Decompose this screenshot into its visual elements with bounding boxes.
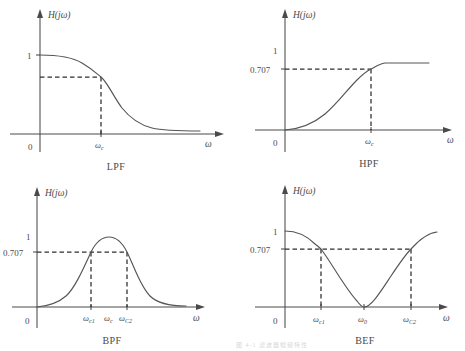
- x-axis-label-bef: ω: [443, 313, 450, 323]
- y-axis-label-bpf: H(jω): [44, 188, 68, 199]
- x-tick-label-wc2-bpf: ωC2: [119, 314, 132, 324]
- origin-label-bpf: 0: [25, 316, 30, 326]
- response-curve-lpf: [40, 55, 200, 131]
- x-tick-label-wc-hpf: ωc: [365, 137, 374, 147]
- chart-panel-lpf: H(jω) 1 0 ωc ω LPF: [0, 0, 232, 175]
- chart-svg-bef: H(jω) 1 0.707 0 ωc1 ω0 ωC2 ω BEF: [233, 176, 465, 351]
- y-tick-label-0707-bef: 0.707: [250, 245, 271, 255]
- x-tick-label-wc1-bef: ωc1: [313, 315, 325, 325]
- x-axis-label-lpf: ω: [205, 139, 212, 149]
- x-tick-label-w0-bef: ω0: [358, 315, 367, 325]
- chart-svg-bpf: H(jω) 1 0.707 0 ωc1 ωc ωC2 ω BPF: [0, 176, 232, 351]
- x-axis-label-hpf: ω: [447, 135, 454, 145]
- chart-panel-hpf: H(jω) 1 0.707 0 ωc ω HPF: [233, 0, 465, 175]
- y-tick-label-0707-hpf: 0.707: [250, 65, 271, 75]
- figure-sheet: H(jω) 1 0 ωc ω LPF H(jω) 1 0.707 0 ωc ω …: [0, 0, 465, 351]
- chart-svg-hpf: H(jω) 1 0.707 0 ωc ω HPF: [233, 0, 465, 175]
- y-tick-label-0707-bpf: 0.707: [3, 248, 24, 258]
- response-curve-bpf: [37, 237, 186, 307]
- chart-svg-lpf: H(jω) 1 0 ωc ω LPF: [0, 0, 232, 175]
- y-tick-label-one-bef: 1: [273, 227, 278, 237]
- y-axis-arrow-bef: [282, 185, 288, 194]
- x-axis-label-bpf: ω: [193, 313, 200, 323]
- origin-label-bef: 0: [273, 316, 278, 326]
- x-axis-arrow-bef: [439, 304, 448, 310]
- x-tick-label-wc-lpf: ωc: [95, 141, 104, 151]
- origin-label-lpf: 0: [28, 142, 33, 152]
- response-curve-hpf: [285, 63, 429, 130]
- caption-lpf: LPF: [107, 161, 125, 172]
- y-tick-label-one-bpf: 1: [26, 232, 31, 242]
- x-tick-label-wc2-bef: ωC2: [403, 315, 416, 325]
- x-tick-label-wc-bpf: ωc: [104, 314, 113, 324]
- figure-footnote: 图 4-1 滤波器幅频特性: [236, 340, 396, 349]
- y-tick-label-one-lpf: 1: [27, 51, 32, 61]
- x-tick-label-wc1-bpf: ωc1: [83, 314, 95, 324]
- y-axis-arrow-lpf: [37, 9, 43, 18]
- x-axis-arrow-bpf: [196, 304, 205, 310]
- y-axis-label-hpf: H(jω): [292, 10, 316, 21]
- y-axis-label-bef: H(jω): [292, 186, 316, 197]
- y-axis-arrow-bpf: [34, 187, 40, 196]
- caption-hpf: HPF: [359, 158, 379, 169]
- caption-bpf: BPF: [103, 335, 122, 346]
- chart-panel-bef: H(jω) 1 0.707 0 ωc1 ω0 ωC2 ω BEF: [233, 176, 465, 351]
- origin-label-hpf: 0: [273, 138, 278, 148]
- x-axis-arrow-lpf: [215, 131, 224, 137]
- x-axis-arrow-hpf: [443, 127, 452, 133]
- y-axis-arrow-hpf: [282, 9, 288, 18]
- response-curve-bef: [285, 231, 437, 307]
- chart-panel-bpf: H(jω) 1 0.707 0 ωc1 ωc ωC2 ω BPF: [0, 176, 232, 351]
- y-axis-label-lpf: H(jω): [47, 10, 71, 21]
- y-tick-label-one-hpf: 1: [273, 46, 278, 56]
